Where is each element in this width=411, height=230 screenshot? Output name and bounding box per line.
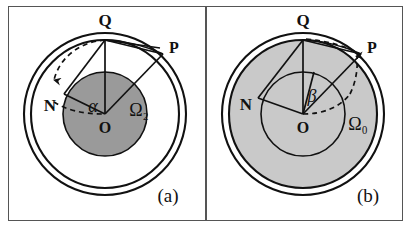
figure-root: Q P N O α Ω₂ (a) <box>0 0 411 230</box>
panel-tag-b: (b) <box>357 185 379 207</box>
label-alpha-a: α <box>88 96 98 116</box>
label-N-b: N <box>240 95 253 114</box>
panel-a: Q P N O α Ω₂ (a) <box>8 6 205 221</box>
label-O-b: O <box>297 119 309 136</box>
label-P-a: P <box>169 39 179 56</box>
label-O-a: O <box>99 119 111 136</box>
label-Q-b: Q <box>296 11 309 30</box>
label-P-b: P <box>367 39 377 56</box>
panel-b: Q P N O β Ω₀ (b) <box>206 6 403 221</box>
label-omega-b: Ω₀ <box>348 114 368 134</box>
panel-tag-a: (a) <box>157 185 178 207</box>
label-beta-b: β <box>307 86 317 106</box>
label-N-a: N <box>44 96 57 115</box>
label-Q-a: Q <box>98 11 111 30</box>
label-omega-a: Ω₂ <box>129 100 149 120</box>
